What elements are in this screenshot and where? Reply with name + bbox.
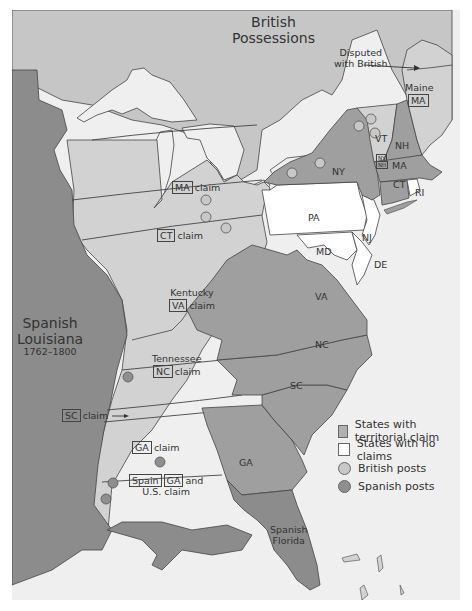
pa-label: PA (308, 213, 320, 224)
florida-label-line2: Florida (270, 536, 308, 547)
yazoo-claim-label: SpainGAand U.S. claim (129, 474, 203, 498)
legend-item-spanish-posts: Spanish posts (338, 478, 460, 497)
legend-label: British posts (358, 462, 426, 475)
yazoo-and-text: and (185, 475, 203, 486)
legend-item-no-claims: States with no claims (338, 441, 460, 460)
ct-claim-box: CT (157, 229, 175, 242)
tennessee-claim-label: Tennessee NCclaim (152, 354, 202, 378)
disputed-label-line2: with British (334, 59, 388, 70)
ma-claim-label: MAclaim (172, 181, 220, 194)
louisiana-years: 1762–1800 (17, 347, 83, 358)
ma-claim-text: claim (195, 182, 221, 193)
ga-claim-box: GA (132, 441, 152, 454)
maine-label: Maine MA (405, 83, 434, 107)
territorial-claim-swatch-icon (338, 425, 348, 438)
spanish-gulf-coast (107, 522, 252, 570)
ma-claim-box: MA (172, 181, 193, 194)
legend-label: Spanish posts (358, 480, 434, 493)
kentucky-name: Kentucky (169, 288, 215, 299)
louisiana-label-line1: Spanish (17, 315, 83, 331)
british-post (221, 223, 231, 233)
british-label-line1: British (232, 14, 315, 30)
vt-nh-box: NH (376, 161, 388, 169)
spanish-post (155, 457, 165, 467)
ga-label: GA (239, 458, 253, 469)
british-label-line2: Possessions (232, 30, 315, 46)
nh-label: NH (395, 141, 409, 152)
pennsylvania (262, 182, 367, 235)
spanish-post (101, 494, 111, 504)
bahamas-island-3 (360, 585, 368, 600)
ri-label: RI (415, 188, 424, 199)
yazoo-claim-text: U.S. claim (129, 487, 203, 498)
bahamas-island-2 (377, 555, 383, 572)
kentucky-claim-text: claim (189, 300, 215, 311)
ga-claim-label: GAclaim (132, 441, 179, 454)
sc-claim-label: SCclaim (62, 409, 108, 422)
vt-label: VT (375, 134, 387, 145)
spanish-post-circle-icon (338, 480, 351, 493)
kentucky-claim-label: Kentucky VAclaim (169, 288, 215, 312)
sc-claim-text: claim (83, 410, 109, 421)
bahamas-island-4 (400, 585, 404, 595)
legend-label: States with no claims (357, 437, 460, 463)
spanish-post (108, 478, 118, 488)
tennessee-name: Tennessee (152, 354, 202, 365)
nc-label: NC (315, 340, 329, 351)
louisiana-label-line2: Louisiana (17, 331, 83, 347)
ma-label: MA (392, 161, 407, 172)
spanish-louisiana-label: Spanish Louisiana 1762–1800 (17, 315, 83, 358)
british-post-circle-icon (338, 462, 351, 475)
map-legend: States with territorial claim States wit… (338, 422, 460, 496)
british-possessions-label: British Possessions (232, 14, 315, 46)
british-post (315, 158, 325, 168)
map-canvas: British Possessions Disputed with Britis… (12, 10, 460, 600)
ct-claim-label: CTclaim (157, 229, 203, 242)
disputed-label: Disputed with British (334, 48, 388, 70)
sc-claim-box: SC (62, 409, 81, 422)
ct-label: CT (393, 180, 405, 191)
kentucky-va-box: VA (169, 299, 187, 312)
british-post (201, 195, 211, 205)
maine-name: Maine (405, 83, 434, 94)
va-label: VA (315, 292, 327, 303)
md-label: MD (316, 247, 332, 258)
vt-nh-claim: NH (376, 153, 388, 171)
british-post (201, 212, 211, 222)
ga-claim-text: claim (154, 442, 180, 453)
maine-owner-box: MA (408, 94, 429, 107)
ct-claim-text: claim (177, 230, 203, 241)
nj-label: NJ (362, 233, 372, 244)
sc-label: SC (290, 381, 303, 392)
ny-label: NY (332, 167, 345, 178)
no-claims-swatch-icon (338, 443, 350, 456)
tennessee-claim-text: claim (175, 366, 201, 377)
spanish-florida-label: Spanish Florida (270, 525, 308, 547)
spanish-post (123, 372, 133, 382)
british-post (366, 114, 376, 124)
british-post (287, 168, 297, 178)
de-label: DE (374, 260, 387, 271)
bahamas-island-1 (342, 554, 360, 562)
map-svg (12, 10, 460, 600)
tennessee-nc-box: NC (153, 365, 173, 378)
british-post (354, 121, 364, 131)
